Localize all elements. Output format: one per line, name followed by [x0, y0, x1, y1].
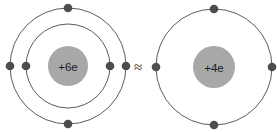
electron-valence-top	[210, 5, 219, 14]
electron-outer-top	[64, 4, 73, 13]
approximately-equal-symbol: ≈	[134, 59, 142, 75]
electron-inner-right	[106, 62, 115, 71]
nucleus-label-core: +4e	[204, 62, 224, 74]
electron-outer-bottom	[64, 120, 73, 129]
electron-outer-left	[6, 62, 15, 71]
nucleus-label-full: +6e	[58, 61, 78, 73]
electron-valence-bottom	[210, 121, 219, 130]
diagram-canvas: +6e ≈ +4e	[0, 0, 277, 132]
electron-outer-right	[122, 62, 131, 71]
electron-inner-left	[22, 62, 31, 71]
atom-approximation-diagram: +6e ≈ +4e	[0, 0, 277, 132]
electron-valence-left	[152, 63, 161, 72]
electron-valence-right	[268, 63, 277, 72]
